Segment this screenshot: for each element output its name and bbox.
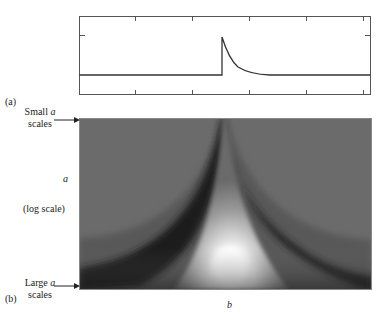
small-label-prefix: Small (25, 106, 51, 117)
scalogram (79, 118, 372, 290)
arrow-small-scales-icon (54, 116, 80, 124)
large-label-scales: scales (28, 289, 52, 300)
signal-plot (0, 0, 392, 110)
plot-frame (80, 17, 371, 95)
arrow-large-scales-icon (54, 282, 80, 290)
signal-curve (80, 37, 371, 75)
x-ticks-top (136, 17, 364, 22)
small-label-scales: scales (28, 118, 52, 129)
panel-b-label: (b) (5, 293, 17, 305)
x-ticks-bottom (136, 90, 364, 95)
large-label-prefix: Large (25, 277, 51, 288)
y-axis-note: (log scale) (23, 203, 65, 215)
x-axis-variable: b (227, 299, 232, 311)
y-axis-variable: a (63, 173, 68, 185)
